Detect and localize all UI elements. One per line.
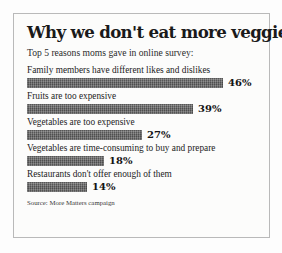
bar-line: 14% bbox=[27, 181, 258, 192]
bar-line: 39% bbox=[27, 103, 258, 114]
source-note: Source: More Matters campaign bbox=[27, 198, 258, 207]
chart-row: Restaurants don't offer enough of them 1… bbox=[27, 168, 258, 192]
bar-value: 46% bbox=[228, 78, 251, 88]
chart-row: Fruits are too expensive 39% bbox=[27, 90, 258, 114]
bar-value: 39% bbox=[198, 104, 221, 114]
bar bbox=[27, 78, 223, 88]
bar-line: 18% bbox=[27, 155, 258, 166]
page-title: Why we don't eat more veggies bbox=[27, 23, 246, 42]
chart-subtitle: Top 5 reasons moms gave in online survey… bbox=[27, 47, 258, 58]
bar bbox=[27, 156, 104, 166]
infographic-frame: Why we don't eat more veggies Top 5 reas… bbox=[13, 13, 270, 238]
infographic-page: Why we don't eat more veggies Top 5 reas… bbox=[0, 0, 282, 253]
bar-label: Family members have different likes and … bbox=[27, 64, 258, 76]
chart-row: Vegetables are time-consuming to buy and… bbox=[27, 142, 258, 166]
bar-value: 14% bbox=[92, 182, 115, 192]
bar-chart: Family members have different likes and … bbox=[27, 64, 258, 192]
chart-row: Family members have different likes and … bbox=[27, 64, 258, 88]
bar-label: Restaurants don't offer enough of them bbox=[27, 168, 258, 180]
bar bbox=[27, 130, 142, 140]
bar bbox=[27, 182, 87, 192]
bar-value: 18% bbox=[109, 156, 132, 166]
bar-label: Vegetables are time-consuming to buy and… bbox=[27, 142, 258, 154]
bar bbox=[27, 104, 193, 114]
bar-label: Vegetables are too expensive bbox=[27, 116, 258, 128]
bar-value: 27% bbox=[147, 130, 170, 140]
chart-row: Vegetables are too expensive 27% bbox=[27, 116, 258, 140]
bar-line: 27% bbox=[27, 129, 258, 140]
bar-line: 46% bbox=[27, 77, 258, 88]
bar-label: Fruits are too expensive bbox=[27, 90, 258, 102]
